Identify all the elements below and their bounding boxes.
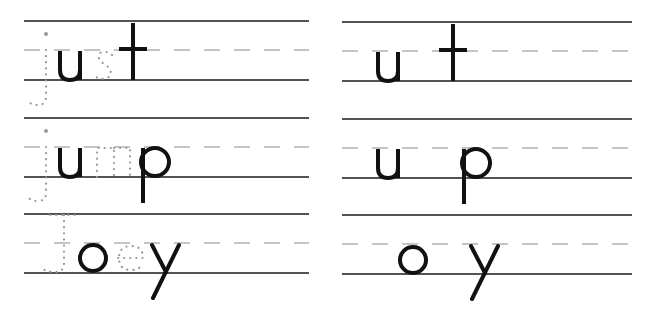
traced-dot-j (44, 32, 48, 36)
solid-letter-o (80, 245, 106, 271)
word-joey (42, 215, 179, 298)
letters-u-t (378, 24, 467, 81)
letters-u-p (378, 149, 490, 204)
solid-letter-t (439, 24, 467, 81)
solid-letter-u (60, 148, 80, 177)
word-just (28, 23, 147, 105)
solid-letter-y (471, 246, 498, 299)
traced-letter-j (28, 147, 46, 201)
word-jump (28, 129, 169, 203)
solid-letter-u (378, 52, 398, 81)
traced-letter-e (118, 246, 143, 270)
traced-letter-j (28, 50, 46, 105)
solid-letter-o (400, 247, 426, 273)
solid-letter-u (60, 51, 80, 80)
left-practice-panel (0, 0, 330, 322)
left-practice-lines (0, 0, 330, 322)
right-practice-panel (330, 0, 649, 322)
right-practice-lines (330, 0, 649, 322)
traced-letter-s (96, 52, 112, 79)
traced-dot-j (44, 129, 48, 133)
solid-letter-p (141, 148, 169, 203)
letters-o-y (400, 246, 498, 299)
solid-letter-u (378, 149, 398, 178)
solid-letter-t (119, 23, 147, 80)
traced-letter-m (97, 148, 130, 177)
solid-letter-y (152, 245, 179, 298)
solid-letter-p (462, 149, 490, 204)
